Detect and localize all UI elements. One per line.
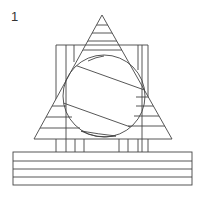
line-drawing-figure [0, 0, 203, 205]
base-rectangle [13, 152, 192, 185]
triangle [30, 15, 180, 139]
